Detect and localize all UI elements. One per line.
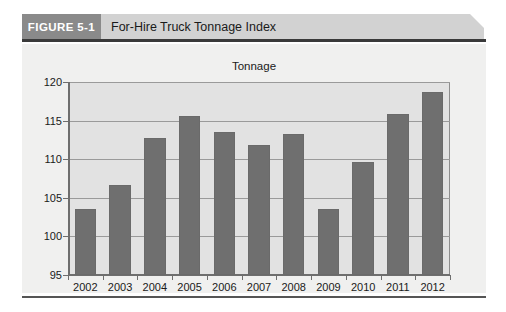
x-tick-mark-2002 bbox=[103, 275, 104, 280]
y-tick-label-105: 105 bbox=[22, 192, 62, 204]
x-tick-label-2009: 2009 bbox=[316, 281, 340, 293]
x-tick-label-2012: 2012 bbox=[420, 281, 444, 293]
bar-2008 bbox=[283, 134, 305, 275]
y-tick-label-95: 95 bbox=[22, 269, 62, 281]
x-tick-label-2011: 2011 bbox=[386, 281, 410, 293]
figure-root: FIGURE 5-1 For-Hire Truck Tonnage Index … bbox=[0, 0, 506, 312]
x-tick-label-2002: 2002 bbox=[73, 281, 97, 293]
x-tick-mark-origin bbox=[68, 275, 69, 280]
bar-2011 bbox=[387, 114, 409, 275]
bar-2004 bbox=[144, 138, 166, 275]
y-tick-label-100: 100 bbox=[22, 230, 62, 242]
header-divider-rule bbox=[22, 39, 486, 42]
bar-2003 bbox=[109, 185, 131, 275]
x-tick-mark-2004 bbox=[172, 275, 173, 280]
y-tick-label-115: 115 bbox=[22, 115, 62, 127]
x-tick-mark-2003 bbox=[137, 275, 138, 280]
y-tick-label-110: 110 bbox=[22, 153, 62, 165]
x-tick-mark-2009 bbox=[346, 275, 347, 280]
x-tick-label-2007: 2007 bbox=[247, 281, 271, 293]
x-tick-label-2005: 2005 bbox=[177, 281, 201, 293]
figure-number-label: FIGURE 5-1 bbox=[28, 21, 95, 33]
x-tick-mark-2005 bbox=[207, 275, 208, 280]
x-tick-mark-2012 bbox=[450, 275, 451, 280]
figure-title: For-Hire Truck Tonnage Index bbox=[111, 14, 276, 39]
bar-2006 bbox=[214, 132, 236, 275]
x-tick-mark-2011 bbox=[415, 275, 416, 280]
chart-title: Tonnage bbox=[22, 60, 486, 72]
gridline-120 bbox=[68, 82, 450, 83]
bar-2002 bbox=[75, 209, 97, 275]
x-tick-mark-2007 bbox=[276, 275, 277, 280]
figure-number-badge: FIGURE 5-1 bbox=[22, 14, 101, 39]
y-axis-line bbox=[68, 82, 70, 275]
x-tick-label-2004: 2004 bbox=[143, 281, 167, 293]
x-tick-mark-2006 bbox=[242, 275, 243, 280]
bar-2007 bbox=[248, 145, 270, 275]
chart-plot-wrapper: 95100105110115120 2002200320042005200620… bbox=[68, 82, 450, 275]
figure-panel: Tonnage 95100105110115120 20022003200420… bbox=[22, 44, 486, 293]
bar-2010 bbox=[352, 162, 374, 275]
bar-2012 bbox=[422, 92, 444, 275]
y-tick-label-120: 120 bbox=[22, 76, 62, 88]
x-tick-label-2008: 2008 bbox=[281, 281, 305, 293]
x-tick-label-2006: 2006 bbox=[212, 281, 236, 293]
bar-2005 bbox=[179, 116, 201, 275]
x-tick-label-2003: 2003 bbox=[108, 281, 132, 293]
x-tick-label-2010: 2010 bbox=[351, 281, 375, 293]
x-tick-mark-2010 bbox=[381, 275, 382, 280]
figure-bottom-rule bbox=[22, 296, 486, 298]
bar-2009 bbox=[318, 209, 340, 275]
x-tick-mark-2008 bbox=[311, 275, 312, 280]
